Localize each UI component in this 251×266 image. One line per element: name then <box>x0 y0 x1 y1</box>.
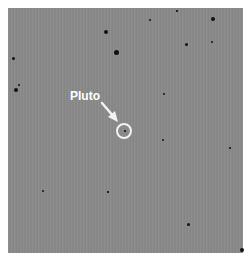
pluto-circle-marker <box>116 123 132 139</box>
pluto-label: Pluto <box>70 89 100 103</box>
